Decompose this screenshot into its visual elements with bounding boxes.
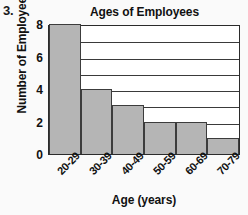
y-tick-label: 4 <box>1 84 43 96</box>
x-tick-60-69: 60-69 <box>176 155 208 193</box>
x-tick-70-79: 70-79 <box>208 155 240 193</box>
x-axis-ticks: 20-2930-3940-4950-5960-6970-79 <box>48 155 240 193</box>
y-tick-label: 0 <box>1 149 43 161</box>
x-axis-label: Age (years) <box>48 193 240 207</box>
x-tick-40-49: 40-49 <box>112 155 144 193</box>
y-axis-ticks: 02468 <box>0 25 46 155</box>
bars-layer <box>49 26 239 154</box>
plot-area <box>48 25 240 155</box>
x-tick-20-29: 20-29 <box>48 155 80 193</box>
chart-title: Ages of Employees <box>48 5 241 19</box>
bar-20-29 <box>49 24 81 154</box>
y-tick-label: 2 <box>1 117 43 129</box>
problem-number: 3. <box>3 3 13 18</box>
y-tick-label: 8 <box>1 19 43 31</box>
y-tick-label: 6 <box>1 52 43 64</box>
x-tick-50-59: 50-59 <box>144 155 176 193</box>
chart-figure: 3. Ages of Employees Number of Employees… <box>0 0 248 215</box>
x-tick-30-39: 30-39 <box>80 155 112 193</box>
bar-30-39 <box>81 89 113 154</box>
